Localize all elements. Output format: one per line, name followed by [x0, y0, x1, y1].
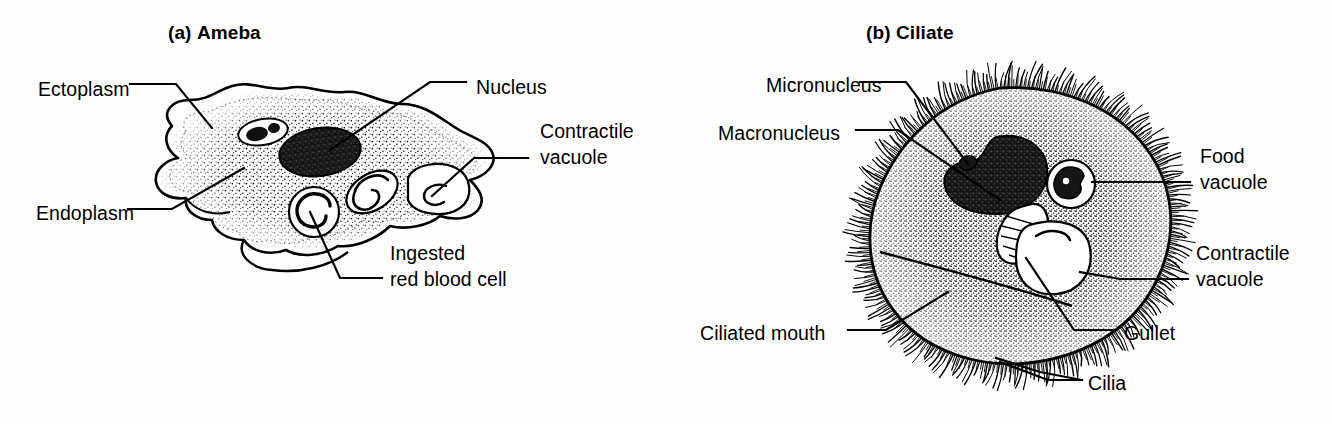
ameba-food-vacuole-spiral [289, 187, 339, 237]
label-cilia: Cilia [1088, 370, 1126, 396]
label-nucleus: Nucleus [476, 74, 547, 100]
label-food-vacuole: Food vacuole [1200, 143, 1268, 195]
label-cilia-line-0: Cilia [1088, 370, 1126, 396]
label-micronucleus: Micronucleus [766, 72, 881, 98]
figure-canvas: (a) Ameba (b) Ciliate Ectoplasm Endoplas… [0, 0, 1332, 424]
label-macronucleus: Macronucleus [718, 120, 840, 146]
label-ingested-line-1: red blood cell [390, 266, 507, 292]
label-ameba-cv-line-1: vacuole [540, 144, 634, 170]
label-endoplasm: Endoplasm [36, 200, 134, 226]
label-macronucleus-line-0: Macronucleus [718, 120, 840, 146]
label-ciliated-mouth: Ciliated mouth [700, 320, 825, 346]
label-ingested-line-0: Ingested [390, 240, 507, 266]
panel-a-name: Ameba [197, 22, 261, 43]
label-nucleus-line-0: Nucleus [476, 74, 547, 100]
label-food-vacuole-line-1: vacuole [1200, 169, 1268, 195]
label-ciliate-contractile-vacuole: Contractile vacuole [1196, 240, 1290, 292]
label-ciliate-cv-line-0: Contractile [1196, 240, 1290, 266]
panel-b-prefix: (b) [866, 22, 891, 43]
label-gullet: Gullet [1124, 320, 1175, 346]
panel-b-title: (b) Ciliate [866, 22, 954, 44]
ciliate-contractile-vacuole [1016, 221, 1091, 294]
label-ciliate-cv-line-1: vacuole [1196, 266, 1290, 292]
panel-b-name: Ciliate [896, 22, 954, 43]
panel-a-prefix: (a) [168, 22, 192, 43]
label-micronucleus-line-0: Micronucleus [766, 72, 881, 98]
label-ectoplasm: Ectoplasm [38, 76, 130, 102]
label-ingested-red-blood-cell: Ingested red blood cell [390, 240, 507, 292]
ciliate-food-vacuole [1047, 160, 1095, 208]
panel-a-title: (a) Ameba [168, 22, 261, 44]
label-ameba-cv-line-0: Contractile [540, 118, 634, 144]
label-ectoplasm-line-0: Ectoplasm [38, 76, 130, 102]
label-endoplasm-line-0: Endoplasm [36, 200, 134, 226]
label-food-vacuole-line-0: Food [1200, 143, 1268, 169]
label-ameba-contractile-vacuole: Contractile vacuole [540, 118, 634, 170]
diagram-artwork [0, 0, 1332, 424]
label-gullet-line-0: Gullet [1124, 320, 1175, 346]
label-ciliated-mouth-line-0: Ciliated mouth [700, 320, 825, 346]
